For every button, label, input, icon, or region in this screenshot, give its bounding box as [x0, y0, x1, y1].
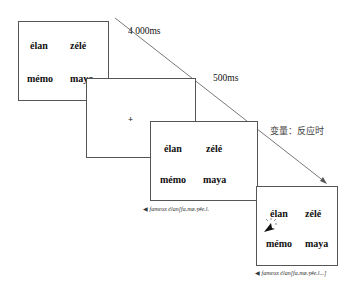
screen-3: élan zélé mémo maya: [150, 121, 258, 201]
word: mémo: [266, 238, 292, 249]
word: maya: [203, 174, 226, 185]
word: mémo: [27, 73, 53, 84]
word: élan: [30, 40, 48, 51]
word: élan: [164, 143, 182, 154]
audio-caption-4: ◀ fameux élan[fa.mø.ʒ#e.l...]: [255, 269, 326, 276]
word: maya: [305, 238, 328, 249]
audio-caption-3: ◀ fameux élan[fa.mø.ʒ#e.l.: [143, 205, 209, 212]
word: zélé: [206, 143, 222, 154]
word: zélé: [305, 208, 321, 219]
timing-4000: 4 000ms: [128, 26, 160, 36]
word: mémo: [160, 174, 186, 185]
word: zélé: [70, 40, 86, 51]
speaker-icon: ◀: [255, 270, 260, 276]
screen-4: élan zélé mémo maya: [256, 186, 338, 266]
mouse-click-icon: [261, 218, 277, 234]
variable-label: 变量：反应时: [270, 124, 324, 137]
timing-500: 500ms: [213, 73, 238, 83]
speaker-icon: ◀: [143, 206, 148, 212]
fixation-cross: +: [128, 114, 133, 124]
